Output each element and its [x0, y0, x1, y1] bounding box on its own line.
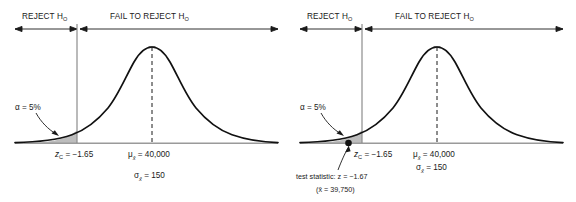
- standard-error-label-right: σx̄ = 150: [416, 163, 447, 174]
- alpha-pointer-arrowhead-left: [52, 130, 60, 136]
- fail-to-reject-region-arrow-right: [365, 26, 563, 31]
- reject-region-label-right: REJECT HO: [307, 12, 353, 22]
- hypothesis-test-panel-left: REJECT HO FAIL TO REJECT HO α = 5%: [0, 0, 288, 202]
- standard-error-label-left: σx̄ = 150: [134, 171, 165, 182]
- test-statistic-leader-arrowhead: [345, 146, 350, 153]
- fail-to-reject-region-label-left: FAIL TO REJECT HO: [110, 12, 189, 22]
- distribution-svg-right: REJECT HO FAIL TO REJECT HO α = 5%: [288, 0, 576, 202]
- critical-value-label-left: zC = −1.65: [54, 150, 94, 160]
- mean-label-left: μx̄ = 40,000: [128, 150, 170, 161]
- test-statistic-xbar-label: (x̄ = 39,750): [316, 185, 355, 194]
- critical-value-label-right: zC = −1.65: [353, 150, 393, 160]
- alpha-pointer-arrow-right: [321, 113, 341, 134]
- normal-curve-left: [15, 47, 278, 143]
- normal-curve-right: [300, 47, 563, 143]
- hypothesis-test-panel-right: REJECT HO FAIL TO REJECT HO α = 5%: [288, 0, 576, 202]
- alpha-label-left: α = 5%: [15, 103, 41, 112]
- test-statistic-label: test statistic: z = −1.67: [296, 172, 368, 181]
- reject-region-label-left: REJECT HO: [22, 12, 68, 22]
- test-statistic-point: [345, 140, 352, 147]
- alpha-pointer-arrow-left: [36, 113, 56, 134]
- mean-label-right: μx̄ = 40,000: [413, 150, 455, 161]
- alpha-label-right: α = 5%: [300, 103, 326, 112]
- alpha-pointer-arrowhead-right: [337, 130, 345, 136]
- fail-to-reject-region-label-right: FAIL TO REJECT HO: [395, 12, 474, 22]
- reject-region-arrow-left: [15, 26, 77, 31]
- reject-region-arrow-right: [300, 26, 362, 31]
- fail-to-reject-region-arrow-left: [80, 26, 278, 31]
- distribution-svg-left: REJECT HO FAIL TO REJECT HO α = 5%: [0, 0, 288, 202]
